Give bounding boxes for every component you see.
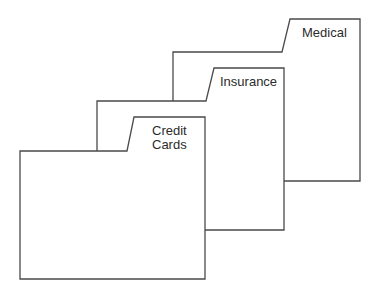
folder-label-medical: Medical bbox=[302, 26, 347, 40]
folder-label-insurance: Insurance bbox=[220, 75, 277, 89]
folder-stack-diagram bbox=[0, 0, 380, 293]
folder-label-credit-cards: Credit Cards bbox=[152, 124, 187, 152]
